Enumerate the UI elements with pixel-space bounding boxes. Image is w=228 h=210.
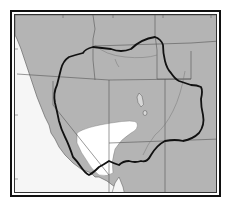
utah-lake xyxy=(143,111,147,116)
map-canvas xyxy=(14,14,217,193)
map-frame xyxy=(10,10,221,197)
range-map-svg xyxy=(15,15,217,193)
